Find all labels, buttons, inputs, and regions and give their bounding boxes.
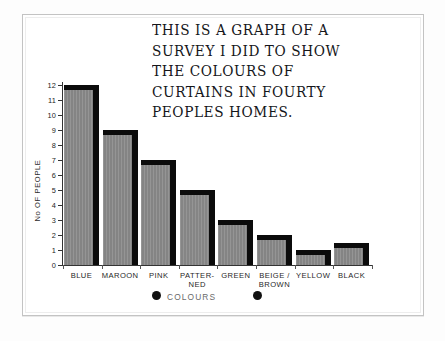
x-tick-0 (63, 265, 64, 269)
y-tick-label-5: 5 (38, 186, 56, 195)
bar-patterned (180, 190, 215, 265)
x-tick-4 (217, 265, 218, 269)
bar-yellow (296, 250, 331, 265)
x-tick-7 (333, 265, 334, 269)
bar-beigebrown (257, 235, 292, 265)
y-tick-label-wrap-7: 7 (36, 156, 56, 165)
bar-face (141, 165, 170, 265)
poster-photo: THIS IS A GRAPH OF A SURVEY I DID TO SHO… (0, 0, 445, 341)
bar-face (257, 240, 286, 265)
bar-face (334, 248, 363, 266)
bar-side-shadow (324, 250, 331, 265)
y-tick-5 (58, 190, 63, 191)
y-tick-label-wrap-8: 8 (36, 141, 56, 150)
x-axis-title: COLOURS (167, 292, 216, 302)
bar-side-shadow (169, 160, 176, 265)
bar-face (180, 195, 209, 265)
y-tick-label-wrap-12: 12 (36, 81, 56, 90)
y-axis-line (62, 82, 63, 266)
y-tick-7 (58, 160, 63, 161)
y-tick-label-3: 3 (38, 216, 56, 225)
bar-side-shadow (92, 85, 99, 265)
bar-chart: No OF PEOPLE COLOURS 0123456789101112 BL… (0, 0, 445, 341)
y-tick-label-2: 2 (38, 231, 56, 240)
y-tick-label-wrap-10: 10 (36, 111, 56, 120)
bar-face (218, 225, 247, 265)
y-tick-label-wrap-0: 0 (36, 261, 56, 270)
y-tick-label-11: 11 (38, 96, 56, 105)
y-tick-8 (58, 145, 63, 146)
bar-blue (64, 85, 99, 265)
y-tick-label-4: 4 (38, 201, 56, 210)
y-tick-1 (58, 250, 63, 251)
y-tick-label-wrap-9: 9 (36, 126, 56, 135)
x-tick-2 (140, 265, 141, 269)
y-tick-label-10: 10 (38, 111, 56, 120)
y-tick-9 (58, 130, 63, 131)
bar-side-shadow (208, 190, 215, 265)
y-tick-label-8: 8 (38, 141, 56, 150)
y-tick-6 (58, 175, 63, 176)
bar-side-shadow (285, 235, 292, 265)
y-tick-10 (58, 115, 63, 116)
y-tick-label-12: 12 (38, 81, 56, 90)
bar-face (103, 135, 132, 265)
y-tick-label-7: 7 (38, 156, 56, 165)
bar-face (296, 255, 325, 265)
y-tick-3 (58, 220, 63, 221)
bar-maroon (103, 130, 138, 265)
y-tick-2 (58, 235, 63, 236)
y-tick-label-wrap-5: 5 (36, 186, 56, 195)
y-tick-4 (58, 205, 63, 206)
y-tick-label-wrap-6: 6 (36, 171, 56, 180)
y-tick-11 (58, 100, 63, 101)
x-tick-1 (102, 265, 103, 269)
x-label-black: BLACK (327, 271, 376, 280)
y-tick-label-wrap-2: 2 (36, 231, 56, 240)
x-tick-3 (179, 265, 180, 269)
y-tick-label-wrap-3: 3 (36, 216, 56, 225)
x-tick-end (372, 265, 373, 269)
bar-green (218, 220, 253, 265)
y-tick-label-1: 1 (38, 246, 56, 255)
y-tick-label-6: 6 (38, 171, 56, 180)
bar-side-shadow (362, 243, 369, 266)
y-tick-label-wrap-11: 11 (36, 96, 56, 105)
bar-side-shadow (131, 130, 138, 265)
bar-face (64, 90, 93, 265)
decorative-dot-right (253, 291, 262, 300)
bar-pink (141, 160, 176, 265)
y-tick-label-0: 0 (38, 261, 56, 270)
bar-side-shadow (246, 220, 253, 265)
y-tick-label-wrap-1: 1 (36, 246, 56, 255)
y-tick-label-9: 9 (38, 126, 56, 135)
bar-black (334, 243, 369, 266)
x-tick-6 (295, 265, 296, 269)
y-tick-label-wrap-4: 4 (36, 201, 56, 210)
x-tick-5 (256, 265, 257, 269)
decorative-dot-left (152, 291, 161, 300)
y-tick-12 (58, 85, 63, 86)
